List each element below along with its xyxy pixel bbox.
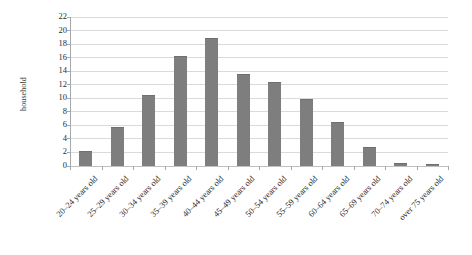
x-axis-tick-mark <box>385 166 386 170</box>
y-axis-tick-mark <box>67 84 70 85</box>
x-axis-tick-mark <box>448 166 449 170</box>
x-axis-tick-mark <box>165 166 166 170</box>
x-axis-tick-mark <box>133 166 134 170</box>
x-axis-tick-mark <box>259 166 260 170</box>
y-axis-tick-mark <box>67 138 70 139</box>
y-axis-tick-mark <box>67 71 70 72</box>
x-axis-tick-mark <box>228 166 229 170</box>
y-axis-tick-mark <box>67 44 70 45</box>
y-axis-tick-mark <box>67 111 70 112</box>
x-axis-tick-mark <box>417 166 418 170</box>
x-axis-tick-mark <box>291 166 292 170</box>
x-axis-tick-mark <box>322 166 323 170</box>
x-axis-tick-mark <box>102 166 103 170</box>
x-axis-tick-mark <box>70 166 71 170</box>
y-axis-tick-mark <box>67 57 70 58</box>
y-axis-tick-mark <box>67 17 70 18</box>
y-axis-tick-mark <box>67 30 70 31</box>
y-axis-tick-mark <box>67 98 70 99</box>
x-axis-tick-mark <box>196 166 197 170</box>
x-axis-tick-labels: 20–24 years old25–29 years old30–34 year… <box>0 0 472 255</box>
bar-chart: household 0246810121416182022 20–24 year… <box>0 0 472 255</box>
y-axis-tick-mark <box>67 152 70 153</box>
x-axis-tick-mark <box>354 166 355 170</box>
y-axis-tick-mark <box>67 125 70 126</box>
